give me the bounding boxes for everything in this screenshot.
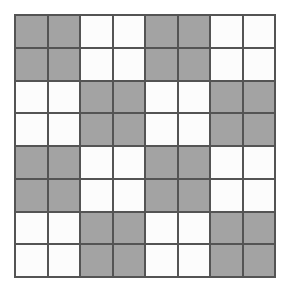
grid-cell-r1-c3: [81, 16, 112, 47]
grid-cell-r2-c1: [16, 49, 47, 80]
grid-cell-r7-c3: [81, 213, 112, 244]
grid-cell-r8-c1: [16, 245, 47, 276]
grid-cell-r7-c8: [244, 213, 275, 244]
grid-cell-r5-c8: [244, 147, 275, 178]
grid-cell-r6-c1: [16, 180, 47, 211]
grid-cell-r5-c3: [81, 147, 112, 178]
grid-cell-r1-c6: [179, 16, 210, 47]
grid-cell-r4-c5: [146, 114, 177, 145]
grid-cell-r8-c6: [179, 245, 210, 276]
grid-cell-r7-c7: [211, 213, 242, 244]
grid-cell-r4-c8: [244, 114, 275, 145]
grid-cell-r3-c1: [16, 82, 47, 113]
grid-cell-r5-c5: [146, 147, 177, 178]
grid-cell-r7-c1: [16, 213, 47, 244]
grid-cell-r3-c2: [49, 82, 80, 113]
grid-cell-r3-c7: [211, 82, 242, 113]
grid-cell-r5-c2: [49, 147, 80, 178]
grid-cell-r2-c2: [49, 49, 80, 80]
grid-cell-r6-c3: [81, 180, 112, 211]
grid-cell-r8-c5: [146, 245, 177, 276]
grid-cell-r2-c3: [81, 49, 112, 80]
grid-cell-r7-c4: [114, 213, 145, 244]
grid-cell-r8-c8: [244, 245, 275, 276]
grid-cell-r2-c6: [179, 49, 210, 80]
grid-cell-r4-c3: [81, 114, 112, 145]
grid-cell-r6-c5: [146, 180, 177, 211]
grid-cell-r4-c4: [114, 114, 145, 145]
grid-cell-r1-c5: [146, 16, 177, 47]
grid-cell-r4-c7: [211, 114, 242, 145]
grid-cell-r5-c6: [179, 147, 210, 178]
grid-cell-r7-c5: [146, 213, 177, 244]
grid-cell-r6-c6: [179, 180, 210, 211]
grid-cell-r1-c8: [244, 16, 275, 47]
grid-cell-r6-c2: [49, 180, 80, 211]
grid-cell-r4-c1: [16, 114, 47, 145]
grid-cell-r4-c6: [179, 114, 210, 145]
grid-cell-r1-c1: [16, 16, 47, 47]
grid-cell-r8-c3: [81, 245, 112, 276]
grid-cell-r6-c4: [114, 180, 145, 211]
grid-cell-r5-c1: [16, 147, 47, 178]
grid-cell-r3-c6: [179, 82, 210, 113]
grid-cell-r7-c2: [49, 213, 80, 244]
grid-cell-r5-c7: [211, 147, 242, 178]
grid-cell-r5-c4: [114, 147, 145, 178]
grid-cell-r2-c5: [146, 49, 177, 80]
grid-cell-r8-c4: [114, 245, 145, 276]
image-canvas: [0, 0, 290, 296]
grid-cell-r7-c6: [179, 213, 210, 244]
grid-cell-r1-c4: [114, 16, 145, 47]
grid-cell-r2-c4: [114, 49, 145, 80]
grid-cell-r4-c2: [49, 114, 80, 145]
grid-cell-r3-c5: [146, 82, 177, 113]
grid-cell-r6-c7: [211, 180, 242, 211]
grid-cell-r3-c3: [81, 82, 112, 113]
checkerboard-grid: [14, 14, 276, 278]
grid-cell-r3-c4: [114, 82, 145, 113]
grid-cell-r2-c7: [211, 49, 242, 80]
grid-cell-r3-c8: [244, 82, 275, 113]
grid-cell-r1-c7: [211, 16, 242, 47]
grid-cell-r6-c8: [244, 180, 275, 211]
grid-cell-r8-c7: [211, 245, 242, 276]
grid-cell-r8-c2: [49, 245, 80, 276]
grid-cell-r1-c2: [49, 16, 80, 47]
grid-cell-r2-c8: [244, 49, 275, 80]
